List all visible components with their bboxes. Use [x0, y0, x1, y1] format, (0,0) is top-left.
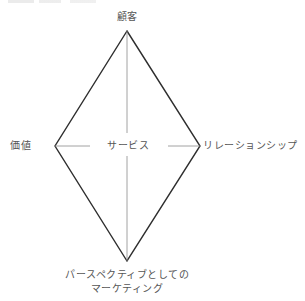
node-label-marketing-line1: パースペクティブとしての — [65, 268, 189, 282]
node-label-service: サービス — [107, 140, 149, 152]
node-label-customer: 顧客 — [117, 11, 138, 23]
node-label-value: 価値 — [10, 140, 31, 152]
node-label-marketing-line2: マーケティング — [65, 282, 189, 296]
node-label-relationship: リレーションシップ — [203, 140, 298, 152]
node-label-marketing-perspective: パースペクティブとしての マーケティング — [65, 268, 189, 296]
